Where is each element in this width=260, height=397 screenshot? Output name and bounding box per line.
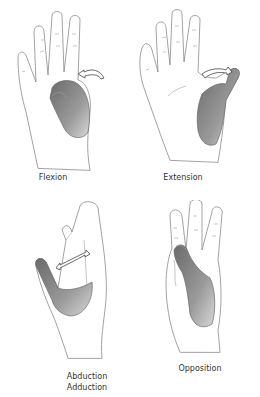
caption-flexion: Flexion [30,172,76,183]
caption-extension: Extension [156,172,210,183]
flexion-arrow-icon [78,70,104,79]
caption-opposition: Opposition [172,363,228,374]
caption-adduction: Adduction [60,382,114,393]
panel-flexion: Flexion [0,0,130,200]
panel-extension: Extension [130,0,260,200]
hand-extension-illustration [130,0,260,200]
hand-abduction-adduction-illustration [0,200,130,397]
caption-abduction: Abduction [60,371,114,382]
panel-abduction-adduction: Abduction Adduction [0,200,130,397]
panel-opposition: Opposition [130,200,260,397]
hand-flexion-illustration [0,0,130,200]
